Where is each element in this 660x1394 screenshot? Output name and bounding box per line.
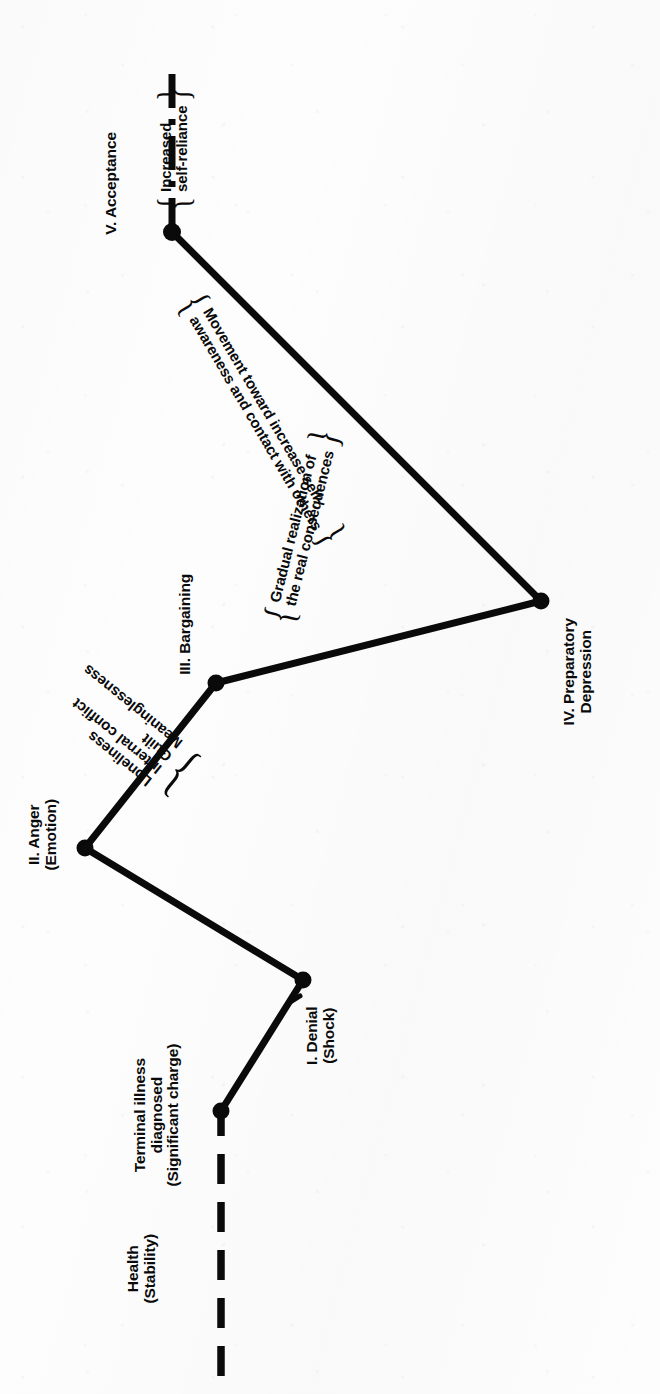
annotation-self-reliance-group: { Increased self-reliance } xyxy=(152,84,196,215)
label-stage-bargaining: III. Bargaining xyxy=(177,574,194,675)
annotation-anger-group: } Loneliness Internal conflict Guilt Mea… xyxy=(49,662,211,810)
label-stage-denial: I. Denial (Shock) xyxy=(304,1006,337,1065)
brace-self-reliance-close: } xyxy=(152,88,196,101)
label-stage-acceptance: V. Acceptance xyxy=(103,132,120,235)
annotation-self-reliance-line-1: Increased xyxy=(158,106,174,192)
annotation-self-reliance-line-2: self-reliance xyxy=(174,106,190,192)
annotation-movement-line-1: Movement toward increase self- xyxy=(200,305,339,525)
label-stage-anger: II. Anger (Emotion) xyxy=(26,799,59,870)
label-health-stability: Health (Stability) xyxy=(125,1234,158,1304)
figure-page: Health (Stability) Terminal illness diag… xyxy=(0,0,660,1394)
label-stage-depression: IV. Preparatory Depression xyxy=(561,618,594,725)
annotation-movement-group: { Movement toward increase self- awarene… xyxy=(170,283,355,555)
label-terminal-illness-event: Terminal illness diagnosed (Significant … xyxy=(132,1044,182,1187)
brace-self-reliance-open: { xyxy=(152,197,196,210)
